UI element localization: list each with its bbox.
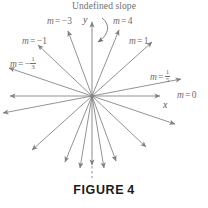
slope-label-value: 0 bbox=[192, 90, 197, 100]
ray-extra-down-left bbox=[80, 96, 92, 168]
y-axis-label: y bbox=[83, 14, 87, 25]
figure-caption: FIGURE4 bbox=[0, 183, 208, 197]
slope-label-eq: = bbox=[29, 36, 37, 46]
slope-label-var: m bbox=[10, 59, 17, 69]
ray-m-neg1-opposite bbox=[92, 96, 146, 147]
slope-label-eq: = bbox=[184, 90, 192, 100]
ray-m-4 bbox=[92, 30, 119, 96]
slope-label-eq: = bbox=[17, 59, 25, 69]
fraction-neg-one-third: 13 bbox=[30, 56, 36, 72]
slope-label-value: 4 bbox=[128, 16, 133, 26]
slope-label-value: −3 bbox=[62, 16, 73, 26]
ray-m-neg1-3 bbox=[9, 68, 92, 96]
ray-extra-down-right bbox=[92, 96, 104, 168]
slope-label-var: m bbox=[177, 90, 184, 100]
ray-m-neg3-opposite bbox=[92, 96, 116, 161]
slope-label-var: m bbox=[129, 36, 136, 46]
figure-caption-number: 4 bbox=[124, 183, 135, 197]
slope-label-m-0: m=0 bbox=[177, 91, 197, 101]
ray-m-neg1 bbox=[38, 45, 92, 96]
slope-label-m-1: m=1 bbox=[129, 37, 149, 47]
figure-container: Undefined slope y x m=−3 m=4 m=−1 m=1 m=… bbox=[0, 0, 208, 208]
slope-label-value: 1 bbox=[144, 36, 149, 46]
slope-fan-diagram bbox=[0, 0, 208, 208]
slope-label-eq: = bbox=[136, 36, 144, 46]
undefined-slope-title: Undefined slope bbox=[0, 1, 208, 11]
fraction-one-fifth: 15 bbox=[165, 69, 171, 85]
slope-label-eq: = bbox=[120, 16, 128, 26]
fraction-denominator: 5 bbox=[165, 77, 171, 84]
undefined-slope-pointer-icon bbox=[98, 18, 108, 42]
slope-label-m-one-fifth: m=15 bbox=[150, 69, 170, 85]
ray-m-1-5-opposite bbox=[3, 96, 92, 113]
ray-m-4-opposite bbox=[65, 96, 92, 162]
ray-m-neg3 bbox=[68, 31, 92, 96]
slope-label-m-neg1: m=−1 bbox=[22, 37, 47, 47]
slope-label-var: m bbox=[47, 16, 54, 26]
ray-m-1 bbox=[92, 42, 152, 96]
slope-label-m-4: m=4 bbox=[113, 17, 133, 27]
figure-caption-word: FIGURE bbox=[73, 183, 124, 197]
slope-label-var: m bbox=[22, 36, 29, 46]
slope-label-eq: = bbox=[54, 16, 62, 26]
x-axis-label: x bbox=[163, 99, 167, 110]
ray-m-1-opposite bbox=[32, 96, 92, 150]
slope-label-eq: = bbox=[157, 72, 165, 82]
slope-label-var: m bbox=[150, 72, 157, 82]
slope-label-value: −1 bbox=[37, 36, 48, 46]
slope-label-var: m bbox=[113, 16, 120, 26]
fraction-denominator: 3 bbox=[30, 64, 36, 71]
slope-label-m-neg-one-third: m=−13 bbox=[10, 56, 36, 72]
slope-label-m-neg3: m=−3 bbox=[47, 17, 72, 27]
